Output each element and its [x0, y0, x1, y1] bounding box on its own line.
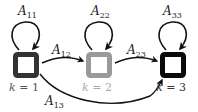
label-a11: A11 [18, 5, 37, 22]
state-label-3: k = 3 [156, 82, 186, 93]
state-box-2[interactable] [89, 55, 110, 76]
state-label-1: k = 1 [9, 82, 39, 93]
label-a12: A12 [52, 44, 71, 61]
label-a33: A33 [163, 5, 182, 22]
label-a23: A23 [127, 44, 146, 61]
self-loop-1 [12, 22, 39, 50]
self-loop-3 [159, 22, 186, 50]
state-box-1[interactable] [16, 55, 37, 76]
state-box-3[interactable] [163, 55, 184, 76]
state-label-2: k = 2 [82, 82, 112, 93]
label-a22: A22 [91, 5, 110, 22]
label-a13: A13 [45, 95, 64, 112]
self-loop-2 [85, 22, 112, 50]
